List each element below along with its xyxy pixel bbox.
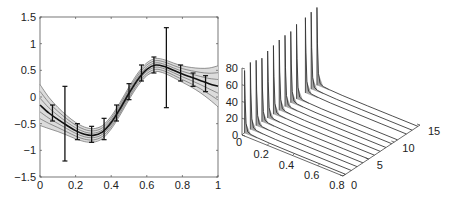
y-tick-label: −1.5 xyxy=(14,171,36,183)
z-tick-label: 80 xyxy=(226,62,238,74)
x-tick-label: 1 xyxy=(215,179,221,191)
error-bars xyxy=(50,28,208,161)
z-tick-label: 20 xyxy=(226,112,238,124)
x-tick-label: 0 xyxy=(236,136,242,148)
y-tick-label: 1 xyxy=(30,38,36,50)
right-3d-waterfall-plot: 02040608000.20.40.60.8051015 xyxy=(226,7,441,191)
x-tick-label: 0.6 xyxy=(304,169,319,181)
z-tick-label: 60 xyxy=(226,79,238,91)
ridges xyxy=(245,7,418,174)
y-tick-label: 5 xyxy=(377,159,383,171)
x-tick-label: 0.2 xyxy=(68,179,83,191)
y-tick-label: 0 xyxy=(351,179,357,191)
ridge xyxy=(311,12,412,130)
left-line-plot: 00.20.40.60.81 1.510.50−0.5−1−1.5 xyxy=(14,11,221,191)
y-tick-label: −1 xyxy=(23,144,36,156)
z-tick-label: 40 xyxy=(226,96,238,108)
ridge xyxy=(317,7,418,126)
x-tick-label: 0.6 xyxy=(139,179,154,191)
3d-axes: 02040608000.20.40.60.8051015 xyxy=(226,62,441,191)
y-tick-label: 0 xyxy=(30,91,36,103)
y-tick-label: 0.5 xyxy=(21,64,36,76)
x-tick-label: 0 xyxy=(37,179,43,191)
y-tick-label: 10 xyxy=(402,142,414,154)
x-tick-label: 0.4 xyxy=(279,159,294,171)
figure: 00.20.40.60.81 1.510.50−0.5−1−1.5 020406… xyxy=(0,0,450,199)
ridge xyxy=(305,18,406,134)
y-tick-label: 1.5 xyxy=(21,11,36,23)
x-tick-label: 0.4 xyxy=(104,179,119,191)
x-tick-label: 0.2 xyxy=(254,148,269,160)
y-tick-label: −0.5 xyxy=(14,118,36,130)
x-tick-label: 0.8 xyxy=(175,179,190,191)
x-tick-label: 0.8 xyxy=(329,179,344,191)
y-tick-label: 15 xyxy=(428,125,440,137)
